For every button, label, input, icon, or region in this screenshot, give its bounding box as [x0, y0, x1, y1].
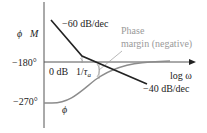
label-corner-frequency: 1/τa	[76, 66, 91, 79]
label-zero-db: 0 dB	[49, 66, 69, 77]
tick-minus180: −180°	[12, 57, 37, 68]
label-slope-high: −60 dB/dec	[62, 18, 109, 29]
label-phase-margin-1: Phase	[121, 25, 145, 36]
label-phase-curve: ϕ	[62, 104, 67, 115]
label-slope-low: −40 dB/dec	[143, 83, 190, 94]
y-label-magnitude: M	[29, 28, 39, 39]
bode-diagram: ϕ M −180° −270° −60 dB/dec Phase margin …	[0, 0, 207, 133]
x-axis-label: log ω	[170, 70, 192, 81]
tick-minus270: −270°	[13, 96, 38, 107]
axis-arrow-icon	[189, 59, 196, 65]
corner-freq-sub: a	[87, 71, 91, 79]
x-axis-label-text: log ω	[170, 70, 192, 81]
y-label-phase: ϕ	[17, 28, 22, 39]
label-phase-margin-2: margin (negative)	[121, 38, 192, 50]
